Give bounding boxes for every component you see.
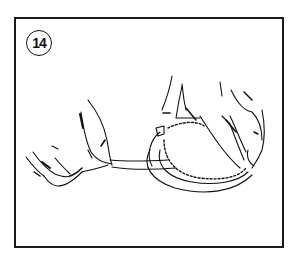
right-hand-drawing <box>162 76 264 168</box>
illustration <box>0 0 300 259</box>
left-hand-drawing <box>26 100 112 186</box>
band-strap <box>110 160 176 169</box>
ring-seal-drawing <box>147 113 252 192</box>
